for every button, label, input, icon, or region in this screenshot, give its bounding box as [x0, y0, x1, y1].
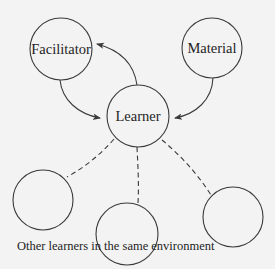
- dashed-link-other-learner-2: [137, 147, 138, 203]
- arrow-facilitator-to-learner: [60, 80, 100, 118]
- learning-environment-diagram: Facilitator Material Learner Other learn…: [0, 0, 275, 269]
- dashed-link-other-learner-3: [162, 140, 211, 195]
- other-learner-node-3: [203, 187, 263, 247]
- other-learner-node-2: [96, 203, 158, 265]
- arrow-material-to-learner: [175, 78, 213, 118]
- dashed-link-other-learner-1: [67, 139, 114, 177]
- learner-label: Learner: [115, 108, 160, 124]
- other-learner-node-1: [13, 170, 73, 230]
- arrow-learner-to-facilitator: [97, 44, 137, 85]
- other-learners-caption: Other learners in the same environment: [17, 239, 215, 253]
- diagram-canvas: Facilitator Material Learner Other learn…: [0, 0, 275, 269]
- facilitator-label: Facilitator: [31, 41, 91, 57]
- material-label: Material: [187, 40, 236, 56]
